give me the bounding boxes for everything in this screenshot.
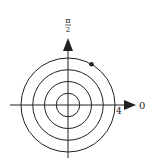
label-two: 2 (66, 26, 70, 34)
label-pi: π (65, 16, 70, 25)
arrow-up-icon (63, 38, 73, 51)
arrow-right-icon (124, 100, 136, 110)
plotted-point (89, 62, 94, 67)
label-radius-4: 4 (116, 106, 122, 116)
polar-diagram: π 2 0 4 (0, 0, 155, 165)
label-zero: 0 (139, 100, 145, 111)
